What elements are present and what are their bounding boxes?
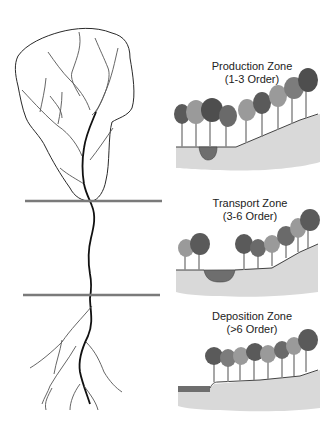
deposition-zone-order: (>6 Order): [182, 323, 322, 336]
production-zone-label: Production Zone (1-3 Order): [182, 60, 322, 86]
deposition-zone-label: Deposition Zone (>6 Order): [182, 310, 322, 336]
stream-zones-diagram: Production Zone (1-3 Order) Transport Zo…: [0, 0, 332, 422]
deposition-zone-illustration: [178, 329, 320, 411]
transport-zone-order: (3-6 Order): [180, 210, 320, 223]
transport-zone-label: Transport Zone (3-6 Order): [180, 197, 320, 223]
production-zone-title: Production Zone: [182, 60, 322, 73]
tributaries-upper: [22, 32, 118, 184]
deposition-zone-title: Deposition Zone: [182, 310, 322, 323]
distributaries-lower: [30, 306, 122, 410]
transport-zone-title: Transport Zone: [180, 197, 320, 210]
production-zone-order: (1-3 Order): [182, 73, 322, 86]
